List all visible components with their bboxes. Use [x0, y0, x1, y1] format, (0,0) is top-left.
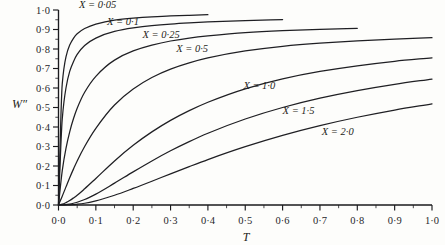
- figure-container: 0·00·10·20·30·40·50·60·70·80·91·00·00·10…: [0, 0, 445, 245]
- curve-label: X = 2·0: [321, 126, 355, 137]
- y-tick-label: 0·1: [36, 180, 50, 191]
- x-tick-label: 0·7: [313, 215, 327, 226]
- y-tick-label: 0·7: [36, 63, 50, 74]
- y-tick-label: 0·4: [36, 122, 51, 133]
- curve-label: X = 0·5: [175, 43, 208, 54]
- x-tick-label: 0·3: [164, 215, 178, 226]
- x-tick-label: 0·0: [52, 215, 66, 226]
- page-bleed-text: [12, 224, 14, 234]
- x-tick-label: 0·8: [350, 215, 364, 226]
- y-axis-title: W″: [12, 97, 28, 111]
- curve-label: X = 1·5: [282, 105, 315, 116]
- y-tick-label: 0·6: [36, 83, 50, 94]
- curve-label: X = 1·0: [242, 80, 276, 91]
- chart-svg: 0·00·10·20·30·40·50·60·70·80·91·00·00·10…: [0, 0, 445, 245]
- y-tick-label: 0·0: [36, 200, 50, 211]
- x-tick-label: 0·9: [388, 215, 402, 226]
- x-tick-label: 0·4: [201, 215, 216, 226]
- y-tick-label: 0·3: [36, 141, 50, 152]
- chart-background: [0, 0, 445, 245]
- x-tick-label: 1·0: [425, 215, 439, 226]
- y-tick-label: 1·0: [36, 5, 50, 16]
- curve-label: X = 0·05: [78, 0, 116, 10]
- y-tick-label: 0·9: [36, 24, 50, 35]
- x-tick-label: 0·2: [126, 215, 140, 226]
- x-tick-label: 0·1: [89, 215, 103, 226]
- y-tick-label: 0·5: [36, 102, 50, 113]
- curve-label: X = 0·25: [142, 29, 180, 40]
- x-tick-label: 0·5: [238, 215, 252, 226]
- x-tick-label: 0·6: [276, 215, 290, 226]
- y-tick-label: 0·2: [36, 161, 50, 172]
- curve-label: X = 0·1: [106, 16, 139, 27]
- y-tick-label: 0·8: [36, 44, 50, 55]
